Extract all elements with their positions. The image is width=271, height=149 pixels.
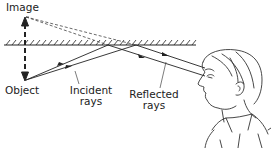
- reflected-rays: [108, 45, 205, 76]
- object-label: Object: [5, 85, 39, 96]
- reflected-leader-line: [160, 62, 166, 88]
- object-image-axis: [22, 17, 29, 81]
- incident-rays: [26, 45, 136, 80]
- plane-mirror: [4, 40, 196, 45]
- incident-rays-label: Incident rays: [67, 85, 115, 107]
- incident-leader-line: [75, 71, 79, 84]
- image-label: Image: [6, 2, 39, 13]
- reflected-ray-arrow-icon: [162, 52, 169, 56]
- image-arrowhead-icon: [22, 17, 29, 26]
- reflected-rays-label-line2: rays: [125, 100, 183, 111]
- mirror-reflection-diagram: [0, 0, 271, 148]
- observer-head-icon: [198, 50, 271, 149]
- reflected-rays-label: Reflected rays: [125, 89, 183, 111]
- incident-rays-label-line2: rays: [67, 96, 115, 107]
